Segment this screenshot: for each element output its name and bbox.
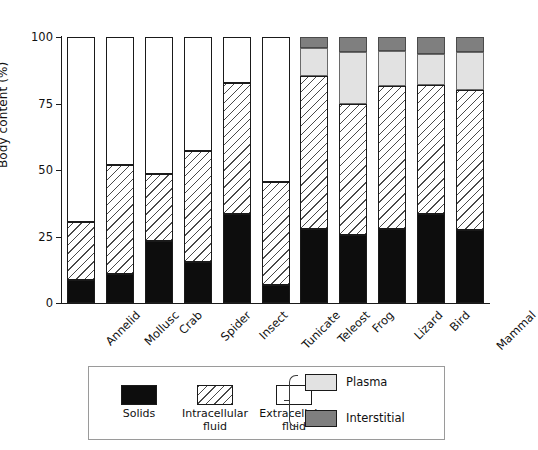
bar-segment-spider-extracellular-fluid — [184, 37, 212, 151]
bar-segment-tunicate-solids — [262, 285, 290, 303]
x-label-frog: Frog — [369, 308, 396, 335]
bar-segment-teleost-solids — [300, 229, 328, 303]
legend-item-plasma[interactable]: Plasma — [305, 374, 387, 391]
x-label-tunicate: Tunicate — [299, 308, 343, 352]
x-label-spider: Spider — [218, 308, 254, 344]
x-label-crab: Crab — [176, 308, 205, 337]
legend-swatch-intracellular — [197, 385, 233, 405]
bar-segment-crab-extracellular-fluid — [145, 37, 173, 174]
bar-segment-lizard-interstitial — [378, 37, 406, 51]
bar-segment-crab-solids — [145, 241, 173, 303]
y-tick-mark — [56, 104, 62, 105]
plot-area: 100 75 50 25 0 — [62, 37, 489, 303]
bar-spider[interactable] — [184, 37, 212, 303]
x-label-mammal: Mammal — [493, 308, 538, 353]
legend-swatch-interstitial — [305, 410, 337, 427]
y-tick-label: 25 — [38, 230, 53, 244]
legend-label-plasma: Plasma — [346, 376, 387, 389]
bar-segment-bird-interstitial — [417, 37, 445, 53]
x-label-lizard: Lizard — [411, 308, 445, 342]
legend-swatch-solids — [121, 385, 157, 405]
bar-segment-bird-intracellular-fluid — [417, 85, 445, 214]
bar-segment-lizard-plasma — [378, 51, 406, 86]
bar-segment-mammal-solids — [456, 230, 484, 303]
bar-segment-mollusc-extracellular-fluid — [106, 37, 134, 165]
y-tick-label: 0 — [46, 296, 53, 310]
legend-item-interstitial[interactable]: Interstitial — [305, 410, 405, 427]
x-label-bird: Bird — [446, 308, 472, 334]
y-tick-label: 50 — [38, 163, 53, 177]
bar-lizard[interactable] — [378, 37, 406, 303]
y-tick-mark — [56, 237, 62, 238]
x-axis-line — [61, 303, 490, 304]
bar-segment-lizard-solids — [378, 229, 406, 303]
bar-segment-insect-extracellular-fluid — [223, 37, 251, 83]
bar-frog[interactable] — [339, 37, 367, 303]
bar-segment-bird-solids — [417, 214, 445, 303]
bar-insect[interactable] — [223, 37, 251, 303]
bar-segment-frog-interstitial — [339, 37, 367, 52]
y-tick-mark — [56, 37, 62, 38]
bar-segment-insect-intracellular-fluid — [223, 83, 251, 214]
bar-segment-teleost-plasma — [300, 48, 328, 76]
bar-segment-spider-solids — [184, 262, 212, 303]
bar-segment-frog-intracellular-fluid — [339, 104, 367, 235]
bar-segment-frog-solids — [339, 235, 367, 303]
bar-segment-mollusc-solids — [106, 274, 134, 303]
bar-segment-insect-solids — [223, 214, 251, 303]
y-tick-mark — [56, 170, 62, 171]
bar-segment-annelid-extracellular-fluid — [67, 37, 95, 222]
x-label-insect: Insect — [256, 308, 290, 342]
bar-tunicate[interactable] — [262, 37, 290, 303]
bar-segment-mollusc-intracellular-fluid — [106, 165, 134, 274]
x-label-teleost: Teleost — [335, 308, 373, 346]
bar-segment-annelid-intracellular-fluid — [67, 222, 95, 280]
legend-label-interstitial: Interstitial — [346, 412, 405, 425]
bar-segment-teleost-intracellular-fluid — [300, 76, 328, 229]
y-axis-title: Body content (%) — [0, 62, 10, 168]
x-label-annelid: Annelid — [103, 308, 143, 348]
y-tick-label: 75 — [38, 97, 53, 111]
legend-group-bracket — [289, 375, 298, 427]
bar-segment-mammal-interstitial — [456, 37, 484, 52]
bar-segment-annelid-solids — [67, 280, 95, 303]
bar-segment-teleost-interstitial — [300, 37, 328, 48]
y-tick-label: 100 — [31, 30, 53, 44]
bar-segment-frog-plasma — [339, 52, 367, 104]
legend-swatch-plasma — [305, 374, 337, 391]
bar-annelid[interactable] — [67, 37, 95, 303]
bar-crab[interactable] — [145, 37, 173, 303]
bar-mollusc[interactable] — [106, 37, 134, 303]
y-tick-mark — [56, 303, 62, 304]
bar-segment-spider-intracellular-fluid — [184, 151, 212, 261]
bar-segment-tunicate-intracellular-fluid — [262, 182, 290, 285]
bar-segment-bird-plasma — [417, 54, 445, 85]
legend-group-bracket-stem — [284, 400, 290, 401]
legend: Solids Intracellular fluid Extracellular… — [88, 366, 445, 440]
bar-segment-lizard-intracellular-fluid — [378, 86, 406, 229]
bar-segment-tunicate-extracellular-fluid — [262, 37, 290, 182]
bar-segment-mammal-intracellular-fluid — [456, 90, 484, 230]
bar-segment-mammal-plasma — [456, 52, 484, 90]
bar-teleost[interactable] — [300, 37, 328, 303]
bar-bird[interactable] — [417, 37, 445, 303]
bar-segment-crab-intracellular-fluid — [145, 174, 173, 241]
bar-mammal[interactable] — [456, 37, 484, 303]
